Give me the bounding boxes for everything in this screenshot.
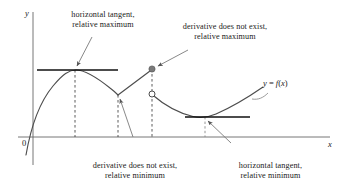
- annotation-derivative-dne-relative-minimum: derivative does not exist, relative mini…: [65, 161, 205, 181]
- x-axis-label: x: [328, 139, 332, 149]
- leader-derivative-dne-relative-maximum: [158, 50, 188, 66]
- annotation-line-2: relative minimum: [213, 171, 328, 181]
- annotation-line-2: relative maximum: [48, 20, 158, 30]
- leader-horizontal-tangent-relative-minimum: [208, 121, 231, 143]
- open-circle-marker: [149, 91, 155, 97]
- calculus-extrema-figure: y x 0 y = f(x) horizontal tangent, relat…: [0, 0, 344, 193]
- annotation-line-1: horizontal tangent,: [48, 10, 158, 20]
- leader-function-label: [252, 93, 268, 99]
- annotation-line-1: horizontal tangent,: [213, 161, 328, 171]
- annotation-horizontal-tangent-relative-minimum: horizontal tangent, relative minimum: [213, 161, 328, 181]
- function-label: y = f(x): [263, 78, 288, 88]
- leader-derivative-dne-relative-minimum: [120, 99, 133, 137]
- curve-rising-line: [118, 70, 152, 96]
- annotation-line-2: relative maximum: [155, 32, 295, 42]
- closed-circle-marker: [149, 66, 155, 72]
- curve-left-arc: [26, 70, 118, 155]
- annotation-horizontal-tangent-relative-maximum: horizontal tangent, relative maximum: [48, 10, 158, 30]
- annotation-line-2: relative minimum: [65, 171, 205, 181]
- annotation-line-1: derivative does not exist,: [65, 161, 205, 171]
- origin-label: 0: [22, 138, 26, 148]
- annotation-line-1: derivative does not exist,: [155, 22, 295, 32]
- annotation-derivative-dne-relative-maximum: derivative does not exist, relative maxi…: [155, 22, 295, 42]
- y-axis-label: y: [25, 8, 29, 18]
- leader-horizontal-tangent-relative-maximum: [77, 37, 92, 66]
- curve-right-parabola: [152, 87, 263, 117]
